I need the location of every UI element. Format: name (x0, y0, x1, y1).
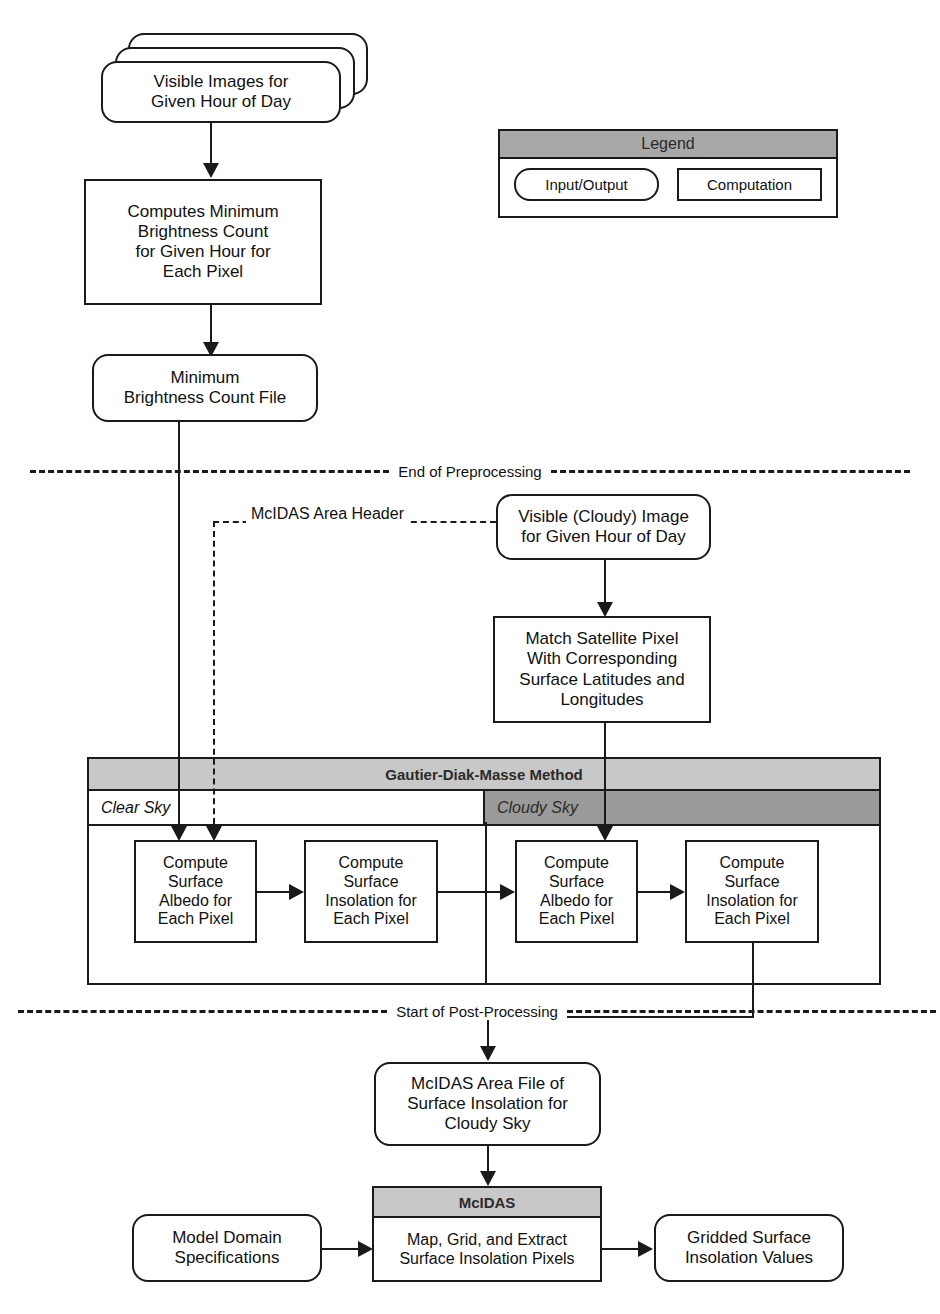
node-cloudy-compute-insolation-label: ComputeSurfaceInsolation forEach Pixel (702, 854, 802, 930)
gautier-method-title: Gautier-Diak-Masse Method (89, 759, 879, 791)
divider-start-of-post-processing: Start of Post-Processing (18, 1002, 936, 1020)
arrowhead-cloudy-image-to-match (597, 602, 613, 617)
arrowhead-cloudy-albedo-to-insolation (670, 884, 685, 900)
arrowhead-match-to-cloudy-albedo (597, 826, 613, 841)
edge-match-to-cloudy-albedo (604, 723, 606, 834)
node-model-domain-specifications-label: Model DomainSpecifications (168, 1228, 286, 1268)
flowchart-canvas: Visible Images forGiven Hour of Day Comp… (0, 0, 940, 1314)
divider-post-rule-left (18, 1010, 387, 1013)
edge-model-domain-to-mcidas (322, 1248, 358, 1250)
edge-down-to-area-file (487, 1016, 489, 1046)
node-cloudy-compute-albedo[interactable]: ComputeSurfaceAlbedo forEach Pixel (515, 840, 638, 943)
edge-label-mcidas-area-header: McIDAS Area Header (246, 505, 409, 523)
node-match-satellite-pixel-label: Match Satellite PixelWith CorrespondingS… (515, 629, 688, 709)
node-mcidas-area-file-label: McIDAS Area File ofSurface Insolation fo… (403, 1074, 572, 1134)
node-cloudy-compute-albedo-label: ComputeSurfaceAlbedo forEach Pixel (535, 854, 619, 930)
arrowhead-area-file-to-mcidas (480, 1171, 496, 1186)
edge-area-header-vertical (213, 521, 215, 834)
legend-item-input-output: Input/Output (514, 168, 659, 201)
node-mcidas-area-file[interactable]: McIDAS Area File ofSurface Insolation fo… (374, 1062, 601, 1146)
node-match-satellite-pixel[interactable]: Match Satellite PixelWith CorrespondingS… (493, 616, 711, 723)
node-minimum-brightness-file-label: MinimumBrightness Count File (120, 368, 291, 408)
node-clear-compute-insolation-label: ComputeSurfaceInsolation forEach Pixel (321, 854, 421, 930)
band-clear-sky: Clear Sky (89, 791, 485, 824)
node-visible-cloudy-image[interactable]: Visible (Cloudy) Imagefor Given Hour of … (496, 494, 711, 560)
arrowhead-model-domain-to-mcidas (358, 1241, 373, 1257)
node-model-domain-specifications[interactable]: Model DomainSpecifications (132, 1214, 322, 1282)
arrowhead-clear-albedo-to-insolation (289, 884, 304, 900)
node-computes-minimum-label: Computes MinimumBrightness Countfor Give… (123, 202, 282, 282)
divider-end-of-preprocessing-label: End of Preprocessing (389, 463, 550, 480)
arrowhead-clear-to-cloudy-branch (500, 884, 515, 900)
divider-rule-right (551, 470, 910, 473)
arrowhead-minfile-to-clear-albedo (171, 826, 187, 841)
node-mcidas-process-label: Map, Grid, and ExtractSurface Insolation… (399, 1230, 574, 1268)
divider-start-of-post-processing-label: Start of Post-Processing (387, 1003, 567, 1020)
legend-item-computation: Computation (677, 168, 822, 201)
edge-mcidas-to-gridded (602, 1248, 638, 1250)
arrowhead-area-header-to-clear-albedo (206, 826, 222, 841)
edge-cloudy-albedo-to-insolation (638, 891, 670, 893)
node-clear-compute-albedo-label: ComputeSurfaceAlbedo forEach Pixel (154, 854, 238, 930)
divider-rule-left (30, 470, 389, 473)
node-visible-cloudy-image-label: Visible (Cloudy) Imagefor Given Hour of … (514, 507, 693, 547)
node-mcidas-process[interactable]: McIDAS Map, Grid, and ExtractSurface Ins… (372, 1186, 602, 1282)
edge-clear-to-cloudy-branch (438, 891, 500, 893)
node-cloudy-compute-insolation[interactable]: ComputeSurfaceInsolation forEach Pixel (685, 840, 819, 943)
divider-end-of-preprocessing: End of Preprocessing (30, 462, 910, 480)
node-visible-images-label: Visible Images forGiven Hour of Day (147, 72, 295, 112)
divider-post-rule-right (567, 1010, 936, 1013)
arrowhead-to-area-file (480, 1046, 496, 1061)
edge-minfile-to-clear-albedo (178, 422, 180, 834)
legend: Legend Input/Output Computation (498, 129, 838, 218)
gautier-column-divider (485, 822, 487, 983)
node-gridded-surface-values-label: Gridded SurfaceInsolation Values (681, 1228, 817, 1268)
arrowhead-visible-to-computes (203, 163, 219, 178)
band-cloudy-sky: Cloudy Sky (485, 791, 879, 824)
edge-visible-to-computes (210, 123, 212, 163)
edge-cloudy-image-to-match (604, 560, 606, 602)
node-minimum-brightness-file[interactable]: MinimumBrightness Count File (92, 354, 318, 422)
node-visible-images[interactable]: Visible Images forGiven Hour of Day (101, 61, 341, 123)
node-clear-compute-insolation[interactable]: ComputeSurfaceInsolation forEach Pixel (304, 840, 438, 943)
node-clear-compute-albedo[interactable]: ComputeSurfaceAlbedo forEach Pixel (134, 840, 257, 943)
arrowhead-mcidas-to-gridded (638, 1241, 653, 1257)
edge-clear-albedo-to-insolation (257, 891, 289, 893)
node-mcidas-process-title: McIDAS (374, 1188, 600, 1218)
gautier-sky-bands: Clear Sky Cloudy Sky (89, 791, 879, 826)
legend-title: Legend (500, 131, 836, 159)
edge-computes-to-minfile (210, 305, 212, 342)
node-computes-minimum[interactable]: Computes MinimumBrightness Countfor Give… (84, 179, 322, 305)
node-gridded-surface-values[interactable]: Gridded SurfaceInsolation Values (654, 1214, 844, 1282)
edge-area-file-to-mcidas (487, 1146, 489, 1171)
legend-body: Input/Output Computation (500, 159, 836, 210)
